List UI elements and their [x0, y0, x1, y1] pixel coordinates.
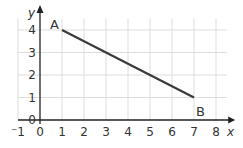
- y-tick-label: 1: [28, 91, 36, 105]
- y-axis-label: y: [27, 6, 36, 20]
- x-tick-label: 8: [212, 125, 220, 139]
- x-tick-label: ⁻1: [11, 125, 25, 139]
- tick-labels: ⁻101234567801234: [11, 23, 220, 139]
- x-axis-label: x: [226, 125, 235, 139]
- x-axis-arrow-icon: [228, 117, 235, 124]
- series: AB: [50, 17, 205, 119]
- x-tick-label: 5: [146, 125, 154, 139]
- x-tick-label: 3: [102, 125, 110, 139]
- y-tick-label: 3: [28, 46, 36, 60]
- x-tick-label: 1: [58, 125, 66, 139]
- x-tick-label: 0: [36, 125, 44, 139]
- point-label-a: A: [50, 17, 59, 32]
- y-tick-label: 2: [28, 68, 36, 82]
- y-axis-arrow-icon: [37, 5, 44, 13]
- x-tick-label: 7: [190, 125, 198, 139]
- x-tick-label: 6: [168, 125, 176, 139]
- point-label-b: B: [196, 104, 205, 119]
- y-tick-label: 0: [28, 113, 36, 127]
- y-tick-label: 4: [28, 23, 36, 37]
- line-chart: xy ⁻101234567801234 AB: [0, 0, 243, 148]
- x-tick-label: 2: [80, 125, 88, 139]
- x-tick-label: 4: [124, 125, 132, 139]
